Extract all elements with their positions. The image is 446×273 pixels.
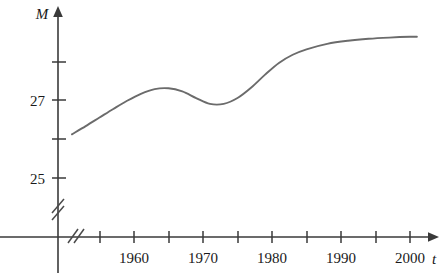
x-axis-break-icon	[68, 229, 84, 243]
x-tick-label-2000: 2000	[395, 250, 425, 266]
x-axis-arrowhead	[428, 232, 439, 242]
y-axis-group: 27 25 M	[30, 6, 66, 273]
x-tick-label-1990: 1990	[326, 250, 356, 266]
y-tick-label-25: 25	[30, 171, 45, 187]
y-axis-ticks	[52, 62, 66, 178]
chart-figure: 1960 1970 1980 1990 2000 t 27 25	[0, 0, 446, 273]
x-tick-label-1960: 1960	[119, 250, 149, 266]
y-tick-label-27: 27	[30, 93, 46, 109]
data-curve-M	[72, 37, 417, 135]
x-axis-title: t	[432, 251, 437, 267]
y-axis-arrowhead	[53, 6, 63, 17]
line-chart-canvas: 1960 1970 1980 1990 2000 t 27 25	[0, 0, 446, 273]
x-tick-label-1970: 1970	[188, 250, 218, 266]
y-axis-title: M	[35, 6, 50, 22]
x-tick-label-1980: 1980	[257, 250, 287, 266]
x-axis-group: 1960 1970 1980 1990 2000 t	[0, 229, 439, 267]
